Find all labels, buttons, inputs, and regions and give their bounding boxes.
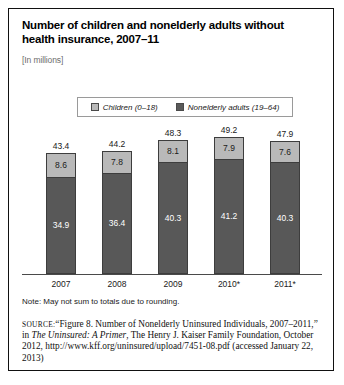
x-tick-label: 2009 (158, 279, 188, 289)
bar-segment-adults: 40.3 (159, 163, 187, 273)
units-label: [In millions] (22, 55, 323, 65)
legend-item-children: Children (0–18) (91, 103, 158, 112)
chart-note: Note: May not sum to totals due to round… (22, 297, 179, 306)
x-axis-tick-labels: 2007 2008 2009 2010* 2011* (46, 279, 322, 289)
stacked-bar: 7.8 36.4 (102, 151, 132, 274)
bar-segment-children-label: 8.1 (167, 147, 179, 156)
bar-segment-children-label: 7.9 (223, 144, 235, 153)
bar-group: 43.4 8.6 34.9 (46, 153, 76, 274)
bar-group: 44.2 7.8 36.4 (102, 151, 132, 274)
bar-segment-adults-label: 41.2 (221, 212, 238, 221)
legend-item-adults: Nonelderly adults (19–64) (176, 103, 280, 112)
bar-segment-adults-label: 40.3 (165, 214, 182, 223)
source-publication-title: The Uninsured: A Primer (32, 330, 127, 340)
bar-segment-children-label: 8.6 (55, 161, 67, 170)
x-tick-label: 2008 (102, 279, 132, 289)
bar-segment-adults-label: 36.4 (109, 219, 126, 228)
legend-label-children: Children (0–18) (103, 103, 158, 112)
legend-label-adults: Nonelderly adults (19–64) (188, 103, 280, 112)
figure-header: Number of children and nonelderly adults… (22, 19, 323, 65)
bar-total-label: 48.3 (165, 128, 182, 138)
bar-segment-adults-label: 34.9 (53, 221, 70, 230)
stacked-bar: 8.1 40.3 (158, 140, 188, 274)
bar-segment-children-label: 7.8 (111, 158, 123, 167)
bar-segment-children: 8.1 (159, 141, 187, 163)
bar-segment-children: 7.6 (271, 142, 299, 163)
chart-plot-area: 43.4 8.6 34.9 44.2 7.8 36 (22, 129, 322, 275)
legend-swatch-adults-icon (176, 103, 184, 111)
x-axis-line (22, 274, 322, 275)
x-tick-label: 2010* (214, 279, 244, 289)
x-tick-label: 2007 (46, 279, 76, 289)
legend-swatch-children-icon (91, 103, 99, 111)
bar-segment-children: 7.8 (103, 152, 131, 174)
source-kicker: SOURCE: (22, 320, 55, 329)
bar-segment-adults: 34.9 (47, 178, 75, 273)
bar-segment-adults: 40.3 (271, 163, 299, 273)
stacked-bar: 7.9 41.2 (214, 137, 244, 274)
bar-total-label: 44.2 (109, 139, 126, 149)
figure-frame: Number of children and nonelderly adults… (8, 8, 334, 371)
source-citation: SOURCE:“Figure 8. Number of Nonelderly U… (22, 319, 318, 364)
page-title: Number of children and nonelderly adults… (22, 19, 302, 46)
bar-segment-adults-label: 40.3 (277, 214, 294, 223)
bar-segment-children-label: 7.6 (279, 148, 291, 157)
stacked-bar: 8.6 34.9 (46, 153, 76, 274)
bar-segment-children: 8.6 (47, 154, 75, 178)
bar-total-label: 49.2 (221, 125, 238, 135)
chart-legend: Children (0–18) Nonelderly adults (19–64… (77, 97, 293, 117)
bar-total-label: 47.9 (277, 129, 294, 139)
bar-segment-adults: 36.4 (103, 174, 131, 273)
x-tick-label: 2011* (270, 279, 300, 289)
bar-total-label: 43.4 (53, 141, 70, 151)
stacked-bar: 7.6 40.3 (270, 141, 300, 274)
bar-group: 48.3 8.1 40.3 (158, 140, 188, 274)
bar-segment-adults: 41.2 (215, 160, 243, 273)
bar-series-container: 43.4 8.6 34.9 44.2 7.8 36 (46, 129, 322, 274)
bar-group: 47.9 7.6 40.3 (270, 141, 300, 274)
bar-segment-children: 7.9 (215, 138, 243, 160)
bar-group: 49.2 7.9 41.2 (214, 137, 244, 274)
